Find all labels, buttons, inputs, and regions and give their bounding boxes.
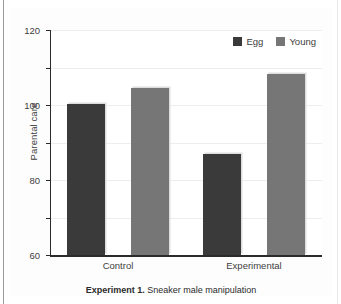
y-tick-label: 120 [24, 25, 40, 36]
gridline [50, 30, 322, 31]
bar-young-experimental[interactable] [267, 74, 305, 255]
chart-card: Parental care 020406080100120 Egg Young … [10, 8, 332, 296]
y-tick-label: 60 [29, 250, 40, 261]
figure-root: Parental care 020406080100120 Egg Young … [0, 0, 341, 304]
x-axis-line [50, 255, 322, 257]
plot-area: 020406080100120 Egg Young [50, 30, 322, 255]
bar-egg-control[interactable] [67, 104, 105, 255]
y-axis-line [50, 30, 51, 255]
gridline [50, 68, 322, 69]
figure-frame-left [3, 0, 4, 304]
y-tick-label: 100 [24, 100, 40, 111]
bar-egg-experimental[interactable] [203, 154, 241, 255]
legend-swatch-egg [233, 37, 242, 46]
x-axis-label-control: Control [103, 260, 134, 271]
legend-label-egg: Egg [246, 36, 263, 47]
caption-label: Experiment 1. [86, 285, 145, 295]
figure-frame-right [337, 0, 338, 304]
y-tick-label: 80 [29, 175, 40, 186]
caption-text: Sneaker male manipulation [145, 285, 257, 295]
x-axis-label-experimental: Experimental [226, 260, 281, 271]
bar-young-control[interactable] [131, 88, 169, 255]
legend-item-young[interactable]: Young [276, 36, 316, 47]
legend-label-young: Young [289, 36, 316, 47]
figure-caption: Experiment 1. Sneaker male manipulation [10, 285, 332, 295]
legend-swatch-young [276, 37, 285, 46]
chart-legend: Egg Young [233, 36, 316, 47]
legend-item-egg[interactable]: Egg [233, 36, 263, 47]
